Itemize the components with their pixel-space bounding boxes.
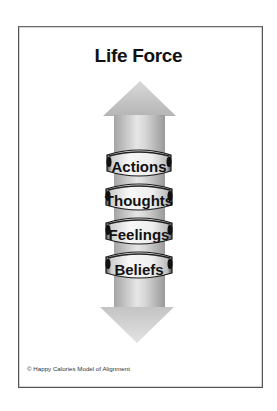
ring-label-actions: Actions [111, 158, 166, 175]
ring-feelings: Feelings [106, 218, 173, 244]
arrow-up-icon [103, 81, 176, 116]
ring-beliefs: Beliefs [106, 252, 173, 278]
arrow-shaft [114, 115, 165, 308]
alignment-diagram: Actions Thoughts Feelings Beliefs [0, 0, 277, 411]
ring-label-beliefs: Beliefs [114, 261, 163, 278]
arrow-down-icon [100, 307, 174, 343]
ring-label-thoughts: Thoughts [105, 192, 173, 209]
ring-label-feelings: Feelings [109, 226, 170, 243]
copyright-footer: © Happy Calories Model of Alignment [27, 365, 130, 372]
ring-actions: Actions [107, 150, 172, 176]
ring-thoughts: Thoughts [105, 184, 173, 210]
